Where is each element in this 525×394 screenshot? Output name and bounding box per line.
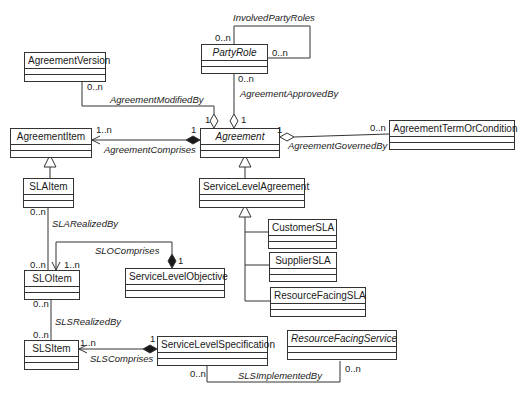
multiplicity: 0..n — [238, 73, 254, 84]
multiplicity: 1 — [241, 114, 246, 125]
class-name: SLOItem — [25, 271, 79, 287]
class-service-level-objective[interactable]: ServiceLevelObjective — [125, 268, 225, 298]
class-name: ServiceLevelObjective — [126, 269, 224, 285]
label-sls-implemented-by: SLSImplementedBy — [238, 370, 322, 381]
composition-diamond — [168, 254, 176, 268]
multiplicity: 1..n — [96, 124, 112, 135]
class-slo-item[interactable]: SLOItem — [24, 270, 80, 300]
operations-compartment — [269, 242, 336, 248]
class-name: ResourceFacingSLA — [271, 288, 365, 304]
multiplicity: 0..n — [190, 368, 206, 379]
multiplicity: 1 — [277, 124, 282, 135]
generalization-line — [245, 217, 270, 301]
class-name: SLSItem — [25, 341, 78, 357]
class-name: Agreement — [201, 129, 279, 145]
operations-compartment — [158, 359, 267, 365]
multiplicity: 0..n — [215, 32, 231, 43]
class-sla-item[interactable]: SLAItem — [23, 178, 74, 208]
multiplicity: 0..n — [30, 259, 46, 270]
label-agreement-governed-by: AgreementGovernedBy — [288, 140, 387, 151]
class-resource-facing-service[interactable]: ResourceFacingService — [287, 330, 397, 360]
operations-compartment — [200, 201, 304, 207]
label-involved-party-roles: InvolvedPartyRoles — [233, 12, 315, 23]
label-agreement-comprises: AgreementComprises — [104, 144, 196, 155]
class-resource-facing-sla[interactable]: ResourceFacingSLA — [270, 287, 366, 317]
class-supplier-sla[interactable]: SupplierSLA — [269, 252, 337, 282]
multiplicity: 0..n — [370, 122, 386, 133]
multiplicity: 1 — [178, 255, 183, 266]
label-agreement-approved-by: AgreementApprovedBy — [240, 88, 338, 99]
label-slo-comprises: SLOComprises — [95, 245, 159, 256]
operations-compartment — [202, 67, 267, 73]
multiplicity: 0..n — [30, 206, 46, 217]
class-name: AgreementTermOrCondition — [390, 121, 514, 137]
class-name: CustomerSLA — [269, 220, 336, 236]
class-name: ServiceLevelAgreement — [200, 179, 304, 195]
class-name: PartyRole — [202, 45, 267, 61]
operations-compartment — [201, 151, 279, 157]
multiplicity: 0..n — [87, 81, 103, 92]
operations-compartment — [25, 363, 78, 369]
operations-compartment — [288, 353, 396, 359]
operations-compartment — [390, 143, 514, 149]
class-name: ResourceFacingService — [288, 331, 396, 347]
class-service-level-agreement[interactable]: ServiceLevelAgreement — [199, 178, 305, 208]
class-name: SLAItem — [24, 179, 73, 195]
aggregation-diamond — [210, 114, 218, 128]
agreement-governed-by-line — [294, 134, 389, 137]
multiplicity: 1..n — [80, 337, 96, 348]
operations-compartment — [270, 275, 336, 281]
multiplicity: 1 — [205, 114, 210, 125]
multiplicity: 0..n — [272, 47, 288, 58]
label-sls-realized-by: SLSRealizedBy — [55, 316, 121, 327]
aggregation-diamond — [230, 114, 238, 128]
multiplicity: 0..n — [33, 329, 49, 340]
class-name: SupplierSLA — [270, 253, 336, 269]
label-sls-comprises: SLSComprises — [90, 353, 153, 364]
composition-diamond — [143, 345, 157, 353]
operations-compartment — [271, 310, 365, 316]
label-sla-realized-by: SLARealizedBy — [52, 218, 118, 229]
class-sls-item[interactable]: SLSItem — [24, 340, 79, 370]
class-agreement[interactable]: Agreement — [200, 128, 280, 158]
class-name: ServiceLevelSpecification — [158, 337, 267, 353]
class-customer-sla[interactable]: CustomerSLA — [268, 219, 337, 249]
multiplicity: 1 — [150, 333, 155, 344]
class-party-role[interactable]: PartyRole — [201, 44, 268, 74]
multiplicity: 0..n — [33, 298, 49, 309]
multiplicity: 1 — [191, 124, 196, 135]
class-agreement-version[interactable]: AgreementVersion — [24, 52, 106, 82]
composition-diamond — [186, 136, 200, 144]
operations-compartment — [11, 151, 91, 157]
operations-compartment — [126, 291, 224, 297]
multiplicity: 0..n — [345, 363, 361, 374]
class-service-level-specification[interactable]: ServiceLevelSpecification — [157, 336, 268, 366]
multiplicity: 1..n — [64, 259, 80, 270]
class-agreement-term-or-condition[interactable]: AgreementTermOrCondition — [389, 120, 515, 150]
class-name: AgreementItem — [11, 129, 91, 145]
class-agreement-item[interactable]: AgreementItem — [10, 128, 92, 158]
class-name: AgreementVersion — [25, 53, 105, 69]
label-agreement-modified-by: AgreementModifiedBy — [110, 94, 203, 105]
